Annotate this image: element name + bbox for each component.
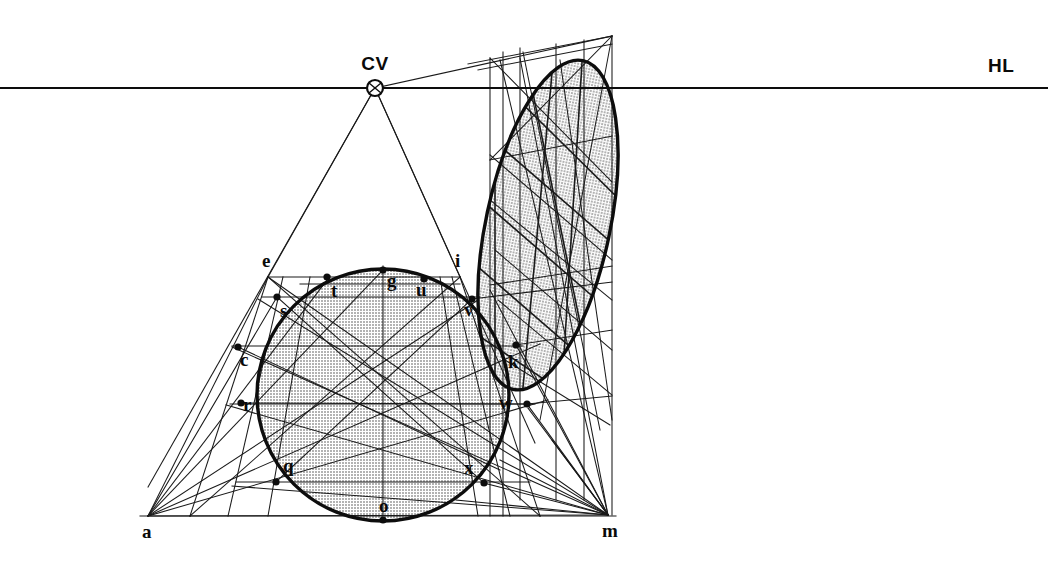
point-dot-o	[379, 516, 386, 523]
point-label-w: w	[499, 392, 513, 413]
point-dot-w	[523, 400, 530, 407]
point-label-t: t	[331, 280, 338, 301]
point-label-q: q	[283, 455, 294, 476]
anchor-label-a: a	[142, 521, 152, 542]
point-dot-x	[480, 479, 487, 486]
point-label-r: r	[243, 394, 252, 415]
point-label-s: s	[280, 300, 287, 321]
center-of-vision-label: CV	[361, 53, 388, 74]
point-label-k: k	[508, 351, 519, 372]
horizon-label: HL	[988, 55, 1014, 76]
transfer-bottom-left-2	[456, 500, 608, 515]
center-of-vision-marker	[367, 80, 383, 96]
transfer-line-w	[527, 396, 612, 404]
right-box-top-edge	[468, 36, 612, 64]
point-label-i: i	[455, 250, 460, 271]
figure-canvas: eigtusvckrwqxo HL CV a m	[0, 0, 1048, 582]
point-dot-g	[379, 266, 386, 273]
point-label-g: g	[387, 270, 397, 291]
point-label-c: c	[240, 349, 248, 370]
point-label-v: v	[464, 299, 474, 320]
point-label-x: x	[464, 457, 474, 478]
point-label-o: o	[379, 495, 389, 516]
right-box-diag-7	[505, 360, 610, 425]
point-label-e: e	[262, 250, 270, 271]
point-dot-q	[272, 478, 279, 485]
transfer-fan-3	[500, 460, 608, 515]
anchor-label-m: m	[602, 520, 618, 541]
point-dot-k	[512, 341, 519, 348]
point-dot-t	[323, 273, 330, 280]
perspective-drawing-figure: eigtusvckrwqxo HL CV a m	[0, 0, 1048, 582]
point-label-u: u	[416, 279, 427, 300]
